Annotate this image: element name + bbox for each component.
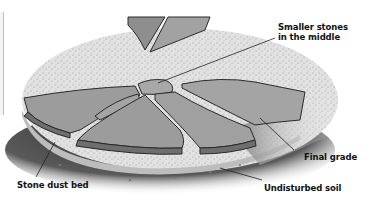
label-final-grade: Final grade: [304, 152, 357, 162]
label-smaller-stones-line2: in the middle: [278, 32, 348, 42]
label-undisturbed-soil: Undisturbed soil: [264, 183, 341, 193]
label-smaller-stones-line1: Smaller stones: [278, 22, 348, 32]
label-smaller-stones: Smaller stones in the middle: [278, 22, 348, 42]
label-stone-dust-bed: Stone dust bed: [17, 180, 89, 190]
